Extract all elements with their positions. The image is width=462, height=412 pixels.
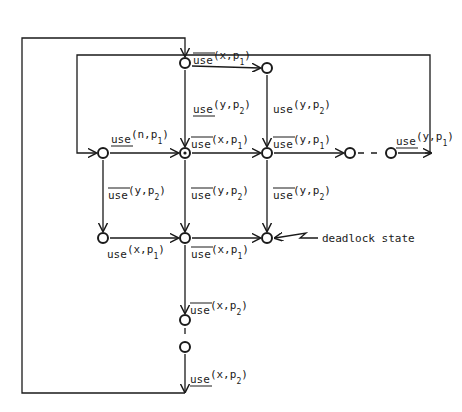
deadlock-label: deadlock state — [322, 232, 415, 245]
label-right-vertical: use(y,p2) — [273, 184, 331, 202]
label-far-right: use(y,p1) — [396, 130, 454, 148]
svg-text:use(x,p1): use(x,p1) — [107, 243, 165, 261]
state-node-j-deadlock — [262, 233, 272, 243]
label-right-node: use(y,p1) — [273, 133, 331, 151]
svg-text:use(x,p1): use(x,p1) — [191, 133, 249, 151]
svg-text:use(y,p2): use(y,p2) — [191, 184, 249, 202]
label-bottom-left: use(x,p1) — [107, 243, 165, 261]
svg-text:use(n,p1): use(n,p1) — [111, 128, 169, 146]
state-diagram: use(x,p1) use(y,p2) use(y,p2) use(n,p1) … — [0, 0, 462, 412]
svg-text:use(x,p2): use(x,p2) — [190, 299, 248, 317]
initial-dot-icon — [183, 151, 186, 154]
label-left-vertical: use(y,p2) — [108, 184, 166, 202]
label-center-vertical: use(y,p2) — [191, 184, 249, 202]
svg-text:use(x,p1): use(x,p1) — [193, 49, 251, 67]
state-node-g — [386, 148, 396, 158]
state-node-i — [180, 233, 190, 243]
label-bottom-vertical: use(x,p2) — [190, 368, 248, 386]
label-mid-top-vertical: use(y,p2) — [193, 98, 251, 116]
label-bottom-center: use(x,p1) — [191, 243, 249, 261]
state-node-c — [98, 148, 108, 158]
svg-text:use(y,p1): use(y,p1) — [273, 133, 331, 151]
svg-text:use(y,p2): use(y,p2) — [273, 184, 331, 202]
svg-text:use(y,p2): use(y,p2) — [273, 98, 331, 116]
label-lower-vertical: use(x,p2) — [190, 299, 248, 317]
deadlock-pointer — [275, 233, 318, 238]
state-node-k — [180, 315, 190, 325]
label-left-node: use(n,p1) — [111, 128, 169, 146]
svg-text:use(y,p2): use(y,p2) — [193, 98, 251, 116]
label-right-top-vertical: use(y,p2) — [273, 98, 331, 116]
svg-text:use(x,p2): use(x,p2) — [190, 368, 248, 386]
label-center-node: use(x,p1) — [191, 133, 249, 151]
svg-text:use(y,p2): use(y,p2) — [108, 184, 166, 202]
state-node-l — [180, 342, 190, 352]
state-node-e — [262, 148, 272, 158]
state-node-h — [98, 233, 108, 243]
svg-text:use(y,p1): use(y,p1) — [396, 130, 454, 148]
state-node-f — [345, 148, 355, 158]
state-node-a — [180, 58, 190, 68]
state-node-b — [262, 63, 272, 73]
label-top-right: use(x,p1) — [193, 49, 251, 67]
svg-text:use(x,p1): use(x,p1) — [191, 243, 249, 261]
